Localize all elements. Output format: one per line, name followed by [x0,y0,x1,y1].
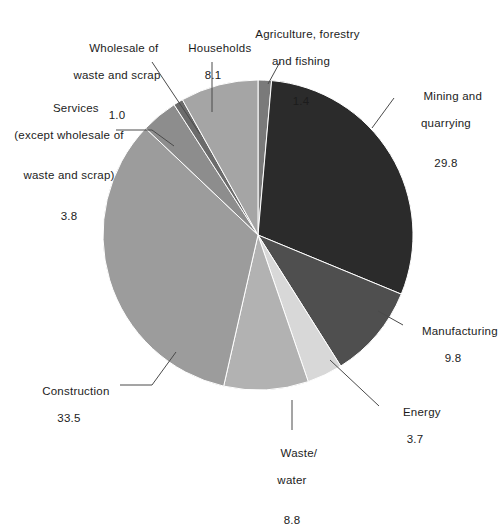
slice-value-energy: 3.7 [385,433,445,447]
slice-label-energy-text: Energy [403,406,441,418]
slice-label-waste-water-line1: Waste/ [280,447,317,459]
leader-line-mining [372,98,394,128]
slice-label-construction-text: Construction [42,385,109,397]
slice-label-mining-line1: Mining and [424,90,483,102]
slice-value-wholesale: 1.0 [62,109,172,123]
slice-label-wholesale: Wholesale of waste and scrap 1.0 [62,28,172,150]
slice-value-agriculture: 1.4 [241,95,361,109]
leader-line-energy [330,360,379,406]
slice-value-construction: 33.5 [22,412,116,426]
slice-label-waste-water: Waste/ water 8.8 [262,433,322,528]
slice-label-services-line3: waste and scrap) [3,169,135,183]
slice-value-waste-water: 8.8 [262,514,322,528]
slice-label-energy: Energy 3.7 [385,392,445,473]
slice-label-waste-water-line2: water [262,474,322,488]
slice-label-wholesale-line1: Wholesale of [89,42,158,54]
slice-value-manufacturing: 9.8 [408,352,498,366]
slice-label-manufacturing-text: Manufacturing [422,325,498,337]
slice-label-wholesale-line2: waste and scrap [62,69,172,83]
slice-label-manufacturing: Manufacturing 9.8 [408,311,498,392]
slice-label-agriculture-line2: and fishing [241,55,361,69]
slice-label-agriculture-line1: Agriculture, forestry [255,28,360,40]
slice-label-construction: Construction 33.5 [22,371,116,452]
slice-value-services: 3.8 [3,210,135,224]
slice-value-mining: 29.8 [400,157,492,171]
slice-label-mining: Mining and quarrying 29.8 [400,76,492,198]
slice-label-agriculture: Agriculture, forestry and fishing 1.4 [241,14,361,136]
slice-label-mining-line2: quarrying [400,117,492,131]
